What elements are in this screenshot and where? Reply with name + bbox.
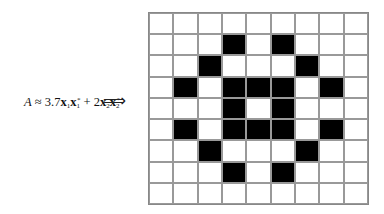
grid-cell: [271, 77, 295, 98]
grid-cell: [198, 140, 222, 161]
grid-cell: [344, 98, 368, 119]
grid-cell: [344, 55, 368, 76]
grid-cell: [344, 162, 368, 183]
grid-cell: [295, 183, 319, 204]
grid-cell: [319, 34, 343, 55]
grid-cell: [271, 55, 295, 76]
grid-cell: [319, 55, 343, 76]
grid-cell: [173, 98, 197, 119]
grid-cell: [173, 119, 197, 140]
grid-cell: [198, 77, 222, 98]
coefficient-1: 3.7: [45, 95, 61, 109]
grid-cell: [271, 119, 295, 140]
approx-symbol: ≈: [35, 95, 42, 109]
grid-cell: [344, 34, 368, 55]
grid-cell: [149, 162, 173, 183]
grid-cell: [246, 140, 270, 161]
grid-cell: [198, 183, 222, 204]
grid-cell: [271, 98, 295, 119]
grid-cell: [295, 77, 319, 98]
grid-cell: [295, 34, 319, 55]
grid-cell: [198, 13, 222, 34]
grid-cell: [222, 55, 246, 76]
grid-cell: [344, 140, 368, 161]
grid-cell: [246, 55, 270, 76]
grid-cell: [319, 119, 343, 140]
grid-cell: [149, 140, 173, 161]
grid-cell: [344, 119, 368, 140]
grid-cell: [295, 98, 319, 119]
grid-cell: [149, 119, 173, 140]
grid-cell: [246, 119, 270, 140]
grid-cell: [222, 98, 246, 119]
grid-cell: [198, 162, 222, 183]
grid-cell: [222, 13, 246, 34]
grid-cell: [246, 34, 270, 55]
superscript: *: [77, 96, 81, 104]
grid-cell: [198, 119, 222, 140]
plus-symbol: +: [84, 95, 91, 109]
grid-cell: [173, 34, 197, 55]
grid-cell: [149, 34, 173, 55]
grid-cell: [246, 183, 270, 204]
grid-cell: [295, 140, 319, 161]
grid-cell: [319, 183, 343, 204]
matrix-symbol: A: [24, 95, 32, 109]
grid-cell: [271, 183, 295, 204]
grid-cell: [295, 55, 319, 76]
grid-cell: [344, 77, 368, 98]
grid-cell: [271, 34, 295, 55]
grid-cell: [173, 162, 197, 183]
grid-cell: [173, 140, 197, 161]
grid-cell: [344, 13, 368, 34]
grid-cell: [149, 13, 173, 34]
grid-cell: [198, 55, 222, 76]
grid-cell: [222, 77, 246, 98]
grid-cell: [295, 119, 319, 140]
grid-cell: [319, 77, 343, 98]
grid-cell: [246, 13, 270, 34]
grid-cell: [295, 13, 319, 34]
grid-cell: [319, 162, 343, 183]
implies-arrow-icon: ⟹: [103, 91, 126, 110]
grid-cell: [271, 162, 295, 183]
grid-cell: [246, 98, 270, 119]
grid-cell: [319, 140, 343, 161]
grid-cell: [271, 13, 295, 34]
grid-cell: [222, 162, 246, 183]
grid-cell: [149, 55, 173, 76]
grid-cell: [222, 140, 246, 161]
grid-cell: [222, 34, 246, 55]
grid-cell: [222, 183, 246, 204]
grid-cell: [173, 183, 197, 204]
grid-cell: [319, 13, 343, 34]
grid-cell: [173, 77, 197, 98]
grid-cell: [271, 140, 295, 161]
grid-cell: [173, 55, 197, 76]
pixel-grid: [148, 12, 369, 205]
grid-cell: [149, 183, 173, 204]
grid-cell: [149, 98, 173, 119]
grid-cell: [173, 13, 197, 34]
grid-cell: [149, 77, 173, 98]
grid-cell: [198, 34, 222, 55]
grid-cell: [222, 119, 246, 140]
grid-cell: [246, 162, 270, 183]
grid-cell: [246, 77, 270, 98]
grid-cell: [344, 183, 368, 204]
grid-cell: [198, 98, 222, 119]
grid-cell: [295, 162, 319, 183]
grid-cell: [319, 98, 343, 119]
